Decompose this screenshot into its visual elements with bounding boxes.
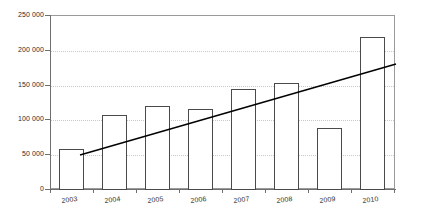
x-axis-label-2007: 2007 [233,194,250,205]
x-axis-label-2010: 2010 [362,194,379,205]
x-axis-labels: 2003 2004 2005 2006 2007 2008 2009 2010 [0,0,433,222]
x-axis-label-2009: 2009 [319,194,336,205]
x-axis-label-2005: 2005 [147,194,164,205]
x-axis-label-2006: 2006 [190,194,207,205]
x-axis-label-2003: 2003 [61,194,78,205]
bar-chart: 250 000 200 000 150 000 100 000 50 000 0… [0,0,433,222]
x-axis-label-2004: 2004 [104,194,121,205]
x-axis-label-2008: 2008 [276,194,293,205]
